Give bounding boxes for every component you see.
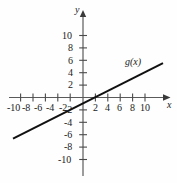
x-tick-label-8: 8	[130, 103, 135, 113]
x-tick-label-6: 6	[117, 103, 122, 113]
x-axis-name: x	[167, 100, 171, 110]
x-tick-label-10: 10	[140, 103, 150, 113]
x-tick-label-2: 2	[93, 103, 98, 113]
coordinate-plane	[0, 0, 177, 183]
x-tick-label--10: -10	[7, 103, 20, 113]
y-tick-label--6: -6	[64, 130, 72, 140]
x-tick-label-4: 4	[105, 103, 110, 113]
y-tick-label--4: -4	[64, 118, 72, 128]
x-tick-label--4: -4	[46, 103, 54, 113]
y-tick-label-10: 10	[62, 31, 72, 41]
x-tick-label--8: -8	[22, 103, 30, 113]
graph-figure: -10 -8 -6 -4 -2 2 4 6 8 10 10 8 6 4 2 -2…	[0, 0, 177, 183]
y-tick-label-4: 4	[68, 68, 73, 78]
y-axis	[80, 10, 86, 176]
x-tick-label--6: -6	[34, 103, 42, 113]
y-tick-label-6: 6	[68, 56, 73, 66]
y-tick-label-8: 8	[68, 43, 73, 53]
y-tick-label--10: -10	[58, 155, 71, 165]
y-tick-label--8: -8	[64, 142, 72, 152]
y-tick-label-2: 2	[68, 80, 73, 90]
line-series-gx	[13, 63, 163, 139]
y-axis-name: y	[75, 5, 79, 15]
y-tick-label--2: -2	[64, 105, 72, 115]
curve-label-gx: g(x)	[125, 57, 141, 67]
